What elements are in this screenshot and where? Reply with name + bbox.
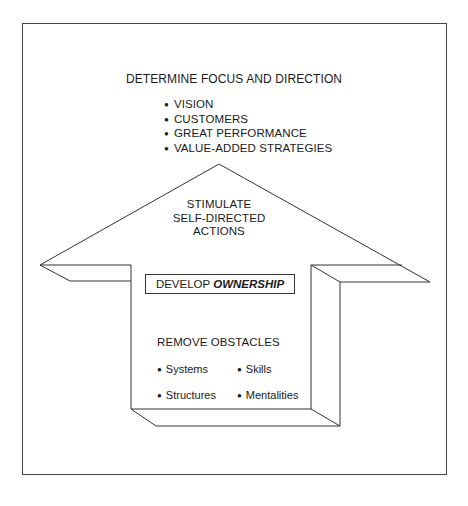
develop-label: DEVELOP — [156, 278, 210, 290]
focus-heading: DETERMINE FOCUS AND DIRECTION — [0, 72, 468, 86]
obstacle-systems: Systems — [157, 363, 208, 375]
stimulate-line-3: ACTIONS — [0, 225, 438, 239]
obstacle-mentalities: Mentalities — [237, 389, 298, 401]
obstacle-label: Mentalities — [246, 389, 299, 401]
obstacle-skills: Skills — [237, 363, 272, 375]
focus-item-label: GREAT PERFORMANCE — [174, 127, 307, 139]
develop-ownership-box: DEVELOP OWNERSHIP — [145, 274, 295, 294]
focus-item-customers: CUSTOMERS — [164, 113, 332, 128]
obstacle-label: Structures — [166, 389, 216, 401]
obstacle-label: Systems — [166, 363, 208, 375]
focus-item-label: VISION — [174, 98, 214, 110]
obstacle-label: Skills — [246, 363, 272, 375]
focus-item-label: CUSTOMERS — [174, 113, 248, 125]
ownership-label: OWNERSHIP — [213, 278, 284, 290]
remove-obstacles-heading: REMOVE OBSTACLES — [157, 336, 280, 348]
obstacle-structures: Structures — [157, 389, 216, 401]
arrow-head-text: STIMULATE SELF-DIRECTED ACTIONS — [0, 198, 438, 239]
focus-item-label: VALUE-ADDED STRATEGIES — [174, 142, 332, 154]
focus-item-performance: GREAT PERFORMANCE — [164, 127, 332, 142]
focus-item-strategies: VALUE-ADDED STRATEGIES — [164, 142, 332, 157]
focus-item-vision: VISION — [164, 98, 332, 113]
stimulate-line-2: SELF-DIRECTED — [0, 212, 438, 226]
focus-list: VISION CUSTOMERS GREAT PERFORMANCE VALUE… — [164, 98, 332, 156]
stimulate-line-1: STIMULATE — [0, 198, 438, 212]
